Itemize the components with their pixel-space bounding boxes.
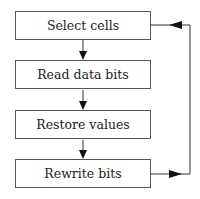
step-label: Select cells — [47, 18, 119, 33]
step-rewrite-bits: Rewrite bits — [15, 159, 151, 188]
arrow-right-icon — [169, 170, 182, 178]
arrow-down-icon — [79, 51, 87, 60]
step-label: Read data bits — [37, 67, 129, 82]
step-read-data-bits: Read data bits — [15, 60, 151, 89]
arrow-down-icon — [79, 150, 87, 159]
step-label: Rewrite bits — [44, 166, 121, 181]
step-restore-values: Restore values — [15, 110, 151, 139]
step-select-cells: Select cells — [15, 11, 151, 40]
arrow-down-icon — [79, 101, 87, 110]
step-label: Restore values — [36, 117, 130, 132]
arrow-left-icon — [169, 21, 182, 29]
